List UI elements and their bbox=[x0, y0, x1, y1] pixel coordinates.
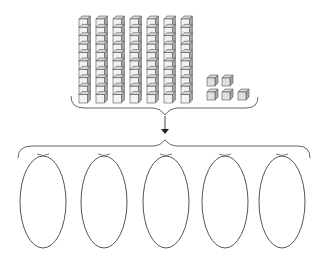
group-ellipse bbox=[143, 154, 189, 248]
unit-cube bbox=[222, 75, 233, 86]
unit-cube bbox=[207, 75, 218, 86]
rod-cube bbox=[164, 92, 175, 103]
group-ellipse bbox=[202, 154, 248, 248]
rod-cube bbox=[113, 92, 124, 103]
tens-rod bbox=[79, 16, 90, 103]
down-arrow-icon bbox=[161, 116, 169, 134]
group-ellipse bbox=[20, 154, 66, 248]
tens-rod bbox=[96, 16, 107, 103]
group-ellipse bbox=[81, 154, 127, 248]
unit-cube bbox=[222, 89, 233, 100]
rod-cube bbox=[147, 92, 158, 103]
unit-cube bbox=[238, 89, 249, 100]
unit-cubes bbox=[207, 75, 249, 100]
group-ellipse bbox=[259, 154, 305, 248]
tens-rod bbox=[130, 16, 141, 103]
tens-rod bbox=[113, 16, 124, 103]
rod-cube bbox=[96, 92, 107, 103]
tens-rod bbox=[181, 16, 192, 103]
group-ellipses bbox=[20, 154, 305, 248]
tens-rod bbox=[164, 16, 175, 103]
rod-cube bbox=[181, 92, 192, 103]
tens-rods bbox=[79, 16, 192, 103]
rod-cube bbox=[130, 92, 141, 103]
division-diagram bbox=[0, 0, 325, 268]
unit-cube bbox=[207, 89, 218, 100]
tens-rod bbox=[147, 16, 158, 103]
rod-cube bbox=[79, 92, 90, 103]
